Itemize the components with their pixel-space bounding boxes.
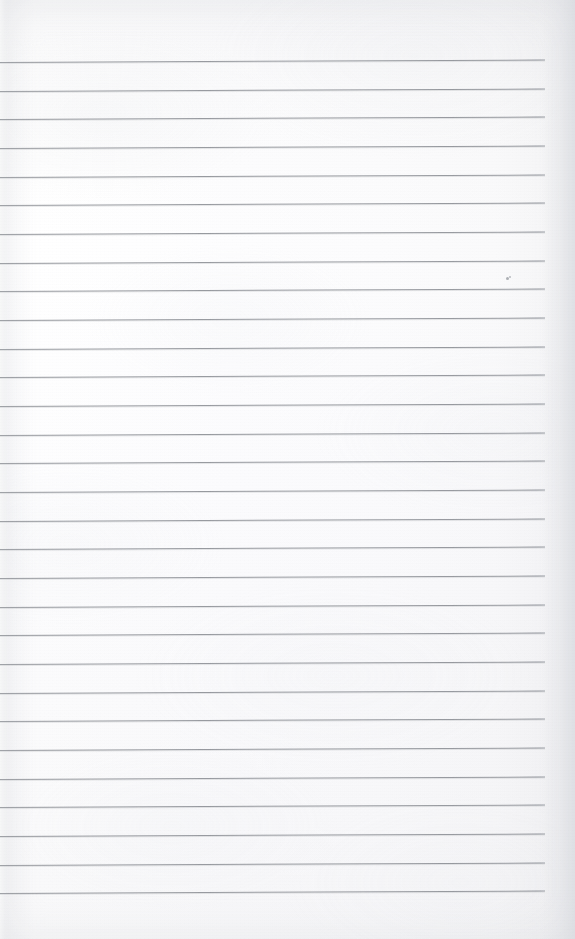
paper-horizontal-shading xyxy=(0,0,575,939)
scanned-page xyxy=(0,0,575,939)
